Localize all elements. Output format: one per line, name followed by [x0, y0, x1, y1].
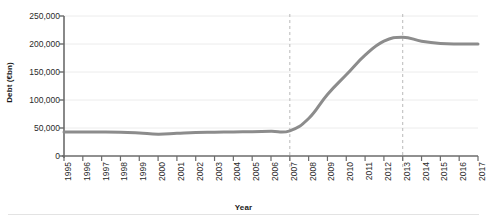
plot-area [0, 0, 487, 221]
bottom-divider [8, 214, 479, 215]
tick-marks [59, 16, 478, 161]
axis-lines [62, 16, 478, 158]
annotation-vertical-lines [290, 14, 403, 168]
debt-line-chart: Debt (€bn) Year 050,000100,000150,000200… [0, 0, 487, 221]
debt-series-line [64, 37, 478, 134]
gridlines [64, 16, 478, 128]
